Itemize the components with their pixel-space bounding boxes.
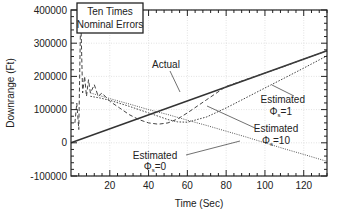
annotation-phi1-value: Φs=1 <box>270 106 293 118</box>
legend-line-2: Nominal Errors <box>77 19 144 30</box>
annotation-phi0-label: Estimated <box>133 150 177 161</box>
y-tick-label: 400000 <box>34 5 68 16</box>
downrange-chart: 20406080100120-1000000100000200000300000… <box>0 0 337 216</box>
y-tick-label: 200000 <box>34 71 68 82</box>
annotation-actual-arrow <box>170 71 180 92</box>
y-tick-label: -100000 <box>30 171 67 182</box>
annotation-phi0-value: Φs=0 <box>144 161 167 173</box>
x-tick-label: 40 <box>143 180 155 191</box>
x-tick-label: 120 <box>295 180 312 191</box>
x-tick-label: 80 <box>221 180 233 191</box>
y-tick-label: 100000 <box>34 104 68 115</box>
legend-line-1: Ten Times <box>87 6 133 17</box>
legend-box: Ten Times Nominal Errors <box>77 3 144 33</box>
annotation-phi10-value: Φs=10 <box>262 135 290 147</box>
annotation-phi10-label: Estimated <box>254 123 298 134</box>
y-tick-label: 0 <box>61 137 67 148</box>
x-tick-label: 100 <box>257 180 274 191</box>
x-axis-title: Time (Sec) <box>175 198 224 209</box>
x-tick-label: 20 <box>104 180 116 191</box>
annotation-actual: Actual <box>152 59 180 70</box>
x-tick-label: 60 <box>182 180 194 191</box>
y-tick-label: 300000 <box>34 38 68 49</box>
y-axis-title: Downrange (Ft) <box>5 58 16 127</box>
annotation-phi1-label: Estimated <box>261 94 305 105</box>
